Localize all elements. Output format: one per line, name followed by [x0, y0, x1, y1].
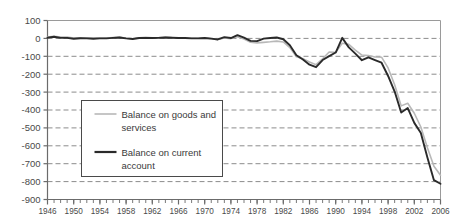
- x-tick-label: 1994: [353, 207, 372, 216]
- x-tick-label: 1990: [327, 207, 346, 216]
- legend-label-1-line2: account: [122, 160, 156, 171]
- legend: Balance on goods andservicesBalance on c…: [82, 101, 223, 177]
- y-tick-label: -900: [21, 194, 40, 205]
- x-tick-label: 1970: [196, 207, 215, 216]
- x-tick-label: 1946: [38, 207, 57, 216]
- y-tick-label: -400: [21, 104, 40, 115]
- x-tick-label: 2006: [431, 207, 450, 216]
- line-chart: 1000-100-200-300-400-500-600-700-800-900…: [0, 0, 461, 222]
- legend-label-0-line2: services: [122, 122, 157, 133]
- chart-container: 1000-100-200-300-400-500-600-700-800-900…: [0, 0, 461, 222]
- y-tick-label: 0: [35, 33, 40, 44]
- x-tick-label: 1958: [117, 207, 136, 216]
- x-tick-label: 1966: [169, 207, 188, 216]
- x-tick-label: 1954: [91, 207, 110, 216]
- y-tick-label: -300: [21, 87, 40, 98]
- y-tick-label: 100: [25, 15, 41, 26]
- y-tick-label: -700: [21, 158, 40, 169]
- x-tick-label: 1986: [300, 207, 319, 216]
- legend-label-0-line1: Balance on goods and: [122, 109, 217, 120]
- y-tick-label: -500: [21, 122, 40, 133]
- x-tick-label: 1950: [65, 207, 84, 216]
- y-tick-label: -200: [21, 69, 40, 80]
- legend-label-1-line1: Balance on current: [122, 147, 202, 158]
- x-tick-label: 2002: [405, 207, 424, 216]
- x-tick-label: 1962: [143, 207, 162, 216]
- x-tick-label: 1978: [248, 207, 267, 216]
- y-tick-label: -600: [21, 140, 40, 151]
- x-tick-label: 1982: [274, 207, 293, 216]
- y-tick-label: -800: [21, 176, 40, 187]
- y-axis-ticks: 1000-100-200-300-400-500-600-700-800-900: [21, 15, 47, 205]
- y-tick-label: -100: [21, 51, 40, 62]
- x-tick-label: 1998: [379, 207, 398, 216]
- x-axis-ticks: 1946195019541958196219661970197419781982…: [38, 200, 450, 216]
- x-tick-label: 1974: [222, 207, 241, 216]
